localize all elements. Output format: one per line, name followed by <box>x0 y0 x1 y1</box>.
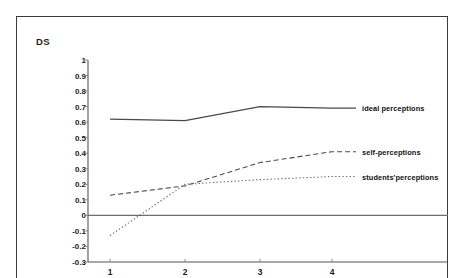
series-line-2 <box>110 177 356 236</box>
series-label-0: ideal perceptions <box>362 104 425 113</box>
series-label-2: students'perceptions <box>362 173 438 182</box>
series-line-0 <box>110 107 356 121</box>
series-label-1: self-perceptions <box>362 148 421 157</box>
series-line-1 <box>110 152 356 196</box>
